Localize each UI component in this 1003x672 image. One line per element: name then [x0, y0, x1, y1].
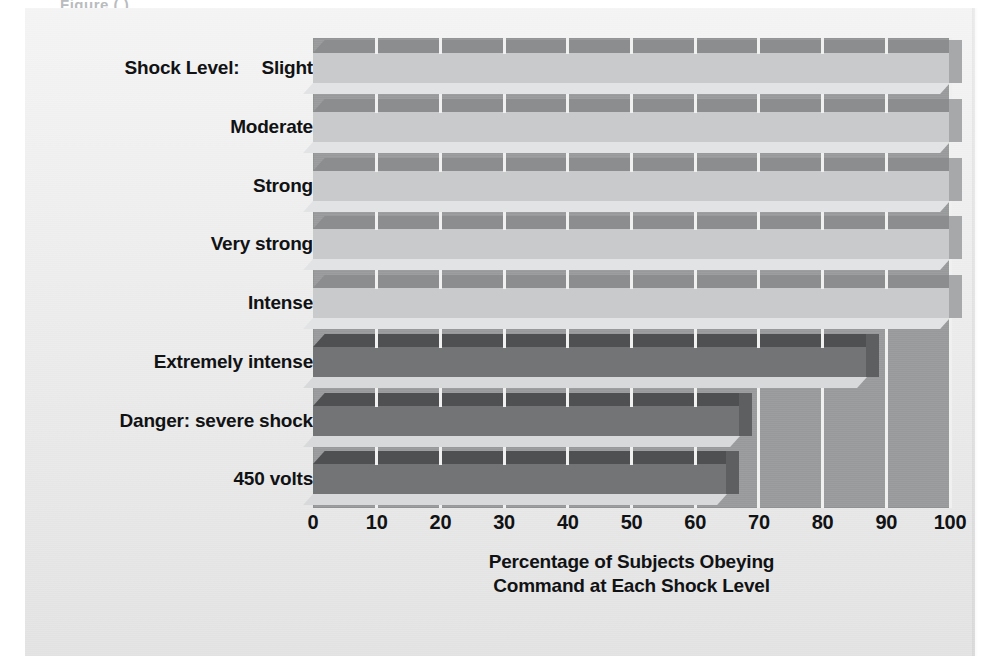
bar[interactable]: [313, 406, 740, 436]
bar-tick-stub: [885, 157, 888, 172]
bar-face-side: [949, 158, 962, 201]
bar-tick-stub: [439, 98, 442, 113]
category-label-row: Moderate: [230, 117, 313, 137]
bar-tick-stub: [885, 98, 888, 113]
bar-tick-stub: [439, 274, 442, 289]
category-label: Moderate: [230, 116, 313, 138]
bar-face-top: [313, 334, 879, 347]
plot-area: [313, 38, 950, 508]
x-tick-label-40: 40: [557, 511, 579, 534]
bar-tick-stub: [694, 392, 697, 407]
category-label-row: Very strong: [211, 234, 313, 254]
bar-face-side: [949, 216, 962, 259]
category-label: Extremely intense: [154, 351, 313, 373]
bar-tick-stub: [375, 333, 378, 348]
bar-face-front: [313, 171, 950, 201]
bar-tick-stub: [630, 157, 633, 172]
category-label-row: Danger: severe shock: [120, 411, 314, 431]
bar-tick-stub: [503, 215, 506, 230]
bar-face-top: [313, 216, 962, 229]
category-label: 450 volts: [233, 468, 313, 490]
bar[interactable]: [313, 53, 950, 83]
bar-face-front: [313, 347, 867, 377]
bar-tick-stub: [439, 392, 442, 407]
category-label: Slight: [261, 57, 313, 79]
bar-tick-stub: [503, 157, 506, 172]
bar-tick-stub: [375, 274, 378, 289]
bar-tick-stub: [566, 39, 569, 54]
bar-tick-stub: [503, 450, 506, 465]
bar-face-side: [949, 275, 962, 318]
x-tick-label-50: 50: [621, 511, 643, 534]
bar-tick-stub: [375, 157, 378, 172]
bar-face-shadow: [303, 142, 950, 153]
bar-face-front: [313, 112, 950, 142]
bar-face-shadow: [303, 83, 950, 94]
bar-tick-stub: [694, 98, 697, 113]
category-label-row: 450 volts: [233, 469, 313, 489]
x-axis-ticks: 0102030405060708090100: [313, 511, 950, 545]
category-label: Very strong: [211, 233, 313, 255]
bar-tick-stub: [439, 157, 442, 172]
bar-tick-stub: [694, 274, 697, 289]
bar-tick-stub: [503, 392, 506, 407]
figure-panel: Shock Level:SlightModerateStrongVery str…: [25, 8, 975, 656]
x-tick-label-60: 60: [684, 511, 706, 534]
bar[interactable]: [313, 288, 950, 318]
bar-tick-stub: [375, 450, 378, 465]
bar-tick-stub: [566, 333, 569, 348]
bar-face-shadow: [303, 377, 867, 388]
bar-tick-stub: [630, 39, 633, 54]
x-axis-title-line-2: Command at Each Shock Level: [313, 574, 950, 598]
bar-tick-stub: [503, 333, 506, 348]
bar-tick-stub: [821, 157, 824, 172]
bar-face-shadow: [303, 318, 950, 329]
bar-tick-stub: [885, 274, 888, 289]
x-axis-title-line-1: Percentage of Subjects Obeying: [313, 550, 950, 574]
bar-tick-stub: [439, 215, 442, 230]
bar-tick-stub: [503, 274, 506, 289]
bar-tick-stub: [566, 157, 569, 172]
bar-face-front: [313, 53, 950, 83]
category-label-row: Shock Level:Slight: [125, 58, 313, 78]
bar-tick-stub: [566, 98, 569, 113]
bar-face-front: [313, 406, 740, 436]
bar-tick-stub: [630, 450, 633, 465]
x-axis-title: Percentage of Subjects ObeyingCommand at…: [313, 550, 950, 598]
bar-face-shadow: [303, 259, 950, 270]
bar-face-side: [726, 451, 739, 494]
bar-tick-stub: [566, 450, 569, 465]
bar-face-top: [313, 275, 962, 288]
bar-tick-stub: [821, 333, 824, 348]
bar[interactable]: [313, 112, 950, 142]
bar-face-side: [949, 40, 962, 83]
bar[interactable]: [313, 171, 950, 201]
bar-tick-stub: [375, 215, 378, 230]
bar-face-top: [313, 99, 962, 112]
category-label-row: Strong: [253, 176, 313, 196]
x-tick-label-20: 20: [430, 511, 452, 534]
bar[interactable]: [313, 464, 727, 494]
category-label: Intense: [248, 292, 313, 314]
bar-tick-stub: [566, 274, 569, 289]
bar-tick-stub: [439, 333, 442, 348]
x-tick-label-100: 100: [934, 511, 966, 534]
bar-tick-stub: [694, 215, 697, 230]
bar-tick-stub: [630, 333, 633, 348]
category-label: Strong: [253, 175, 313, 197]
x-tick-label-80: 80: [812, 511, 834, 534]
category-label: Danger: severe shock: [120, 410, 314, 432]
bar-tick-stub: [757, 333, 760, 348]
bar-face-shadow: [303, 436, 740, 447]
bar[interactable]: [313, 347, 867, 377]
bar-tick-stub: [566, 215, 569, 230]
bar-face-top: [313, 158, 962, 171]
category-label-row: Intense: [248, 293, 313, 313]
bar-tick-stub: [694, 39, 697, 54]
bar-face-side: [949, 99, 962, 142]
bar-tick-stub: [375, 39, 378, 54]
bar-tick-stub: [757, 39, 760, 54]
bar[interactable]: [313, 229, 950, 259]
bar-tick-stub: [757, 274, 760, 289]
bar-tick-stub: [630, 274, 633, 289]
